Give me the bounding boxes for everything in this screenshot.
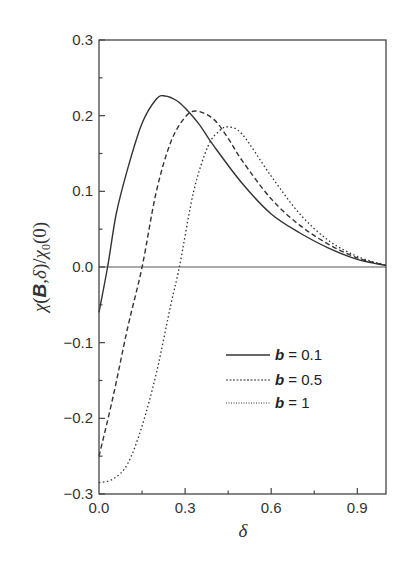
y-tick-label: 0.0 (72, 258, 93, 275)
legend: b = 0.1b = 0.5b = 1 (226, 346, 322, 411)
legend-label: b = 0.5 (275, 371, 322, 388)
chart: 0.30.20.10.0−0.1−0.2−0.30.00.30.60.9 b =… (0, 0, 413, 579)
x-tick-label: 0.3 (175, 499, 196, 516)
y-tick-label: 0.1 (72, 182, 93, 199)
y-tick-label: −0.1 (63, 334, 93, 351)
x-tick-label: 0.9 (347, 499, 368, 516)
series-layer (99, 96, 386, 483)
y-tick-label: −0.2 (63, 409, 93, 426)
x-tick-label: 0.0 (89, 499, 110, 516)
axes-layer: 0.30.20.10.0−0.1−0.2−0.30.00.30.60.9 (63, 31, 386, 516)
y-tick-label: 0.2 (72, 107, 93, 124)
series-line-dotted (99, 127, 386, 483)
series-line-solid (99, 96, 386, 313)
legend-label: b = 0.1 (275, 346, 322, 363)
series-line-dashed (99, 111, 386, 456)
y-axis-title: χ(B,δ)/χ0(0) (29, 222, 53, 314)
y-tick-label: 0.3 (72, 31, 93, 48)
x-axis-title: δ (239, 520, 249, 541)
legend-label: b = 1 (275, 394, 310, 411)
x-tick-label: 0.6 (261, 499, 282, 516)
